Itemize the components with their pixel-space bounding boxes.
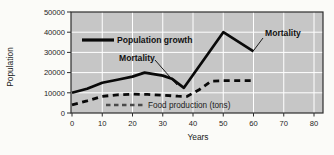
y-tick-label: 40000 (44, 28, 65, 37)
x-tick-label: 60 (249, 119, 257, 128)
x-tick-label: 50 (219, 119, 227, 128)
y-tick-label: 20000 (44, 68, 65, 77)
y-tick-label: 30000 (44, 48, 65, 57)
y-tick-label: 10000 (44, 89, 65, 98)
x-tick-label: 70 (280, 119, 288, 128)
mortality-annotation-mid: Mortality (119, 53, 155, 63)
chart-figure: 01000020000300004000050000 0102030405060… (0, 0, 334, 155)
y-tick-labels: 01000020000300004000050000 (44, 8, 65, 118)
y-tick-label: 50000 (44, 8, 65, 17)
y-tick-label: 0 (61, 109, 65, 118)
x-tick-label: 20 (128, 119, 136, 128)
x-axis-title: Years (187, 132, 208, 142)
x-tick-label: 0 (70, 119, 74, 128)
y-axis-title: Population (5, 47, 15, 87)
x-tick-labels: 01020304050607080 (70, 119, 318, 128)
x-tick-label: 10 (98, 119, 106, 128)
x-tick-label: 80 (310, 119, 318, 128)
food-production-legend-label: Food production (tons) (148, 101, 231, 110)
population-growth-legend-label: Population growth (117, 35, 192, 45)
line-chart: 01000020000300004000050000 0102030405060… (0, 0, 334, 155)
x-tick-label: 30 (159, 119, 167, 128)
x-tick-label: 40 (189, 119, 197, 128)
mortality-annotation-top: Mortality (265, 28, 301, 38)
